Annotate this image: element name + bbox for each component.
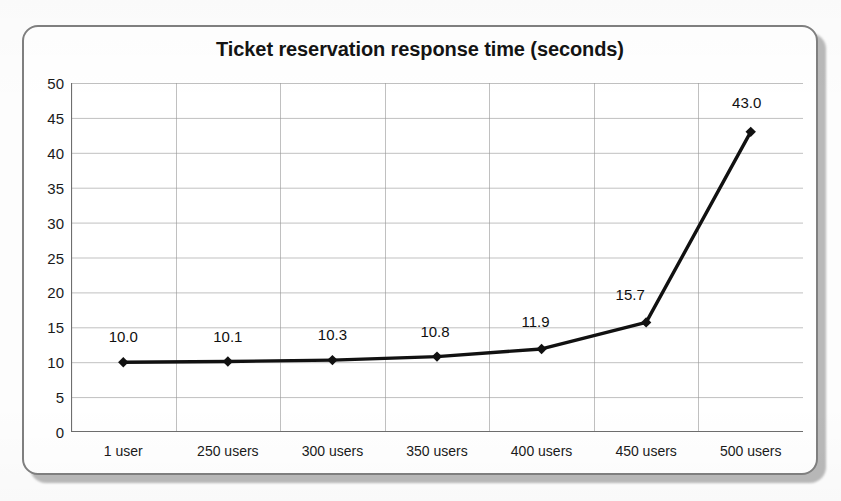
- x-axis-tick-label: 500 users: [698, 444, 803, 458]
- y-axis-tick-label: 45: [30, 111, 64, 126]
- data-point-marker: [118, 357, 128, 367]
- y-axis-tick-label: 50: [30, 76, 64, 91]
- x-axis-tick-labels: 1 user250 users300 users350 users400 use…: [71, 444, 803, 470]
- x-axis-tick-label: 300 users: [280, 444, 385, 458]
- y-axis-tick-label: 30: [30, 216, 64, 231]
- x-axis-tick-label: 250 users: [176, 444, 281, 458]
- y-axis-tick-label: 35: [30, 181, 64, 196]
- y-axis-tick-labels: 50454035302520151050: [22, 83, 64, 432]
- y-axis-tick-label: 10: [30, 355, 64, 370]
- y-axis-tick-label: 15: [30, 320, 64, 335]
- data-point-marker: [536, 344, 546, 354]
- x-axis-tick-label: 450 users: [594, 444, 699, 458]
- y-axis-tick-label: 25: [30, 251, 64, 266]
- x-axis-tick-label: 400 users: [489, 444, 594, 458]
- series-markers: [118, 127, 756, 368]
- x-axis-tick-label: 350 users: [385, 444, 490, 458]
- data-point-marker: [223, 356, 233, 366]
- page-title: Ticket reservation response time (second…: [22, 38, 818, 61]
- horizontal-gridlines: [71, 84, 803, 433]
- x-axis-tick-label: 1 user: [71, 444, 176, 458]
- y-axis-tick-label: 20: [30, 285, 64, 300]
- data-point-marker: [327, 355, 337, 365]
- y-axis-tick-label: 40: [30, 146, 64, 161]
- y-axis-tick-label: 0: [30, 425, 64, 440]
- y-axis-tick-label: 5: [30, 390, 64, 405]
- chart-page: Ticket reservation response time (second…: [0, 0, 841, 501]
- plot-area: [71, 83, 803, 432]
- data-point-marker: [432, 351, 442, 361]
- line-chart-svg: [71, 83, 803, 432]
